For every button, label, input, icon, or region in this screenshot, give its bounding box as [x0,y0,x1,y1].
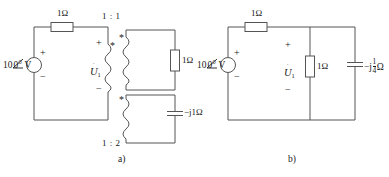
resistor-b-shunt-body [306,56,315,77]
resistor-b-shunt-label: 1Ω [317,62,328,71]
transformer-a-top-ratio: 1 : 1 [102,12,121,21]
source-b-angle: 0° [208,60,217,70]
wire-a-sec2-bottom-lead [126,139,175,143]
resistor-a-load-label: 1Ω [182,56,193,65]
panel-a-transformer-top [123,30,180,90]
dot-marker-a-secondary-top: * [119,33,124,43]
voltage-a-minus-sign: − [96,84,102,94]
resistor-a-series-body [51,23,73,32]
transformer-a-bottom-ratio: 1 : 2 [102,139,121,148]
panel-a-transformer-bottom [123,95,183,143]
source-a-minus-sign: − [40,72,46,82]
circuit-figure: 1Ω 100° V + − + ˙U1 − 1 : 1 * * 1Ω * −j1… [0,0,389,177]
voltage-source-a-label: 100° V [3,60,31,70]
capacitor-b-fraction: 14 [373,58,377,75]
voltage-a-subscript: 1 [98,71,101,78]
wire-a-sec-bottom-lead [126,85,175,90]
capacitor-b-label: −j14Ω [364,58,384,75]
voltage-a-label: ˙U1 [90,61,101,79]
coil-a-secondary-bottom [123,99,129,139]
wire-a-sec2-top-lead [126,95,175,99]
resistor-b-series-label: 1Ω [251,9,262,18]
source-b-magnitude: 10 [197,60,207,70]
coil-a-secondary-top [123,37,129,85]
circuit-drawing [0,0,389,177]
panel-a-caption: a) [118,154,125,164]
source-a-plus-sign: + [40,48,46,58]
source-a-angle: 0° [14,60,23,70]
voltage-a-plus-sign: + [96,38,102,48]
voltage-a-phasor-dot: ˙ [93,61,95,69]
dot-marker-a-secondary-bottom: * [119,95,124,105]
voltage-b-minus-sign: − [285,85,291,95]
resistor-b-series-body [245,23,267,32]
coil-a-primary [105,44,111,92]
capacitor-b-denominator: 4 [373,66,377,75]
voltage-source-b-label: 100° V [197,60,225,70]
panel-b-caption: b) [288,154,296,164]
capacitor-a-label: −j1Ω [184,108,203,117]
source-b-unit: V [218,60,225,70]
resistor-a-load-body [171,50,180,71]
wire-a-sec-top-lead [126,30,175,37]
source-b-minus-sign: − [234,72,240,82]
source-a-magnitude: 10 [3,60,13,70]
voltage-b-subscript: 1 [292,72,295,79]
resistor-a-series-label: 1Ω [57,9,68,18]
voltage-b-symbol: ˙U1 [284,67,295,78]
source-a-unit: V [24,60,31,70]
capacitor-b-prefix: −j [364,62,372,72]
source-b-plus-sign: + [234,48,240,58]
voltage-b-plus-sign: + [285,40,291,50]
voltage-b-phasor-dot: ˙ [287,62,289,70]
capacitor-b-numerator: 1 [373,58,377,66]
capacitor-b-unit: Ω [377,62,384,72]
voltage-a-symbol: ˙U1 [90,66,101,77]
voltage-b-label: ˙U1 [284,62,295,80]
dot-marker-a-primary-top: * [110,41,115,51]
